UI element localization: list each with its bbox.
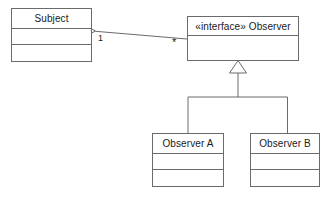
class-operations-subject [12,45,91,61]
uml-class-diagram: 1 * Subject «interface» Observer Observe… [0,0,333,197]
class-operations-observer-a [153,170,223,186]
class-box-subject[interactable]: Subject [11,8,92,62]
multiplicity-target: * [172,37,176,47]
class-attributes-observer [188,36,298,60]
class-attributes-observer-b [251,154,319,170]
class-attributes-observer-a [153,154,223,170]
generalization-triangle-icon [230,61,247,74]
class-header-subject: Subject [12,9,91,29]
class-name-observer-b: Observer B [259,138,311,149]
class-header-observer-a: Observer A [153,134,223,154]
class-box-observer-a[interactable]: Observer A [152,133,224,187]
class-box-observer[interactable]: «interface» Observer [187,16,299,61]
class-header-observer-b: Observer B [251,134,319,154]
class-attributes-subject [12,29,91,45]
class-header-observer: «interface» Observer [188,17,298,36]
class-box-observer-b[interactable]: Observer B [250,133,320,187]
class-name-observer-a: Observer A [162,138,213,149]
multiplicity-source: 1 [98,33,103,43]
class-name-subject: Subject [34,13,68,24]
class-operations-observer-b [251,170,319,186]
class-name-observer: «interface» Observer [195,21,290,32]
generalization-edges [188,61,288,134]
